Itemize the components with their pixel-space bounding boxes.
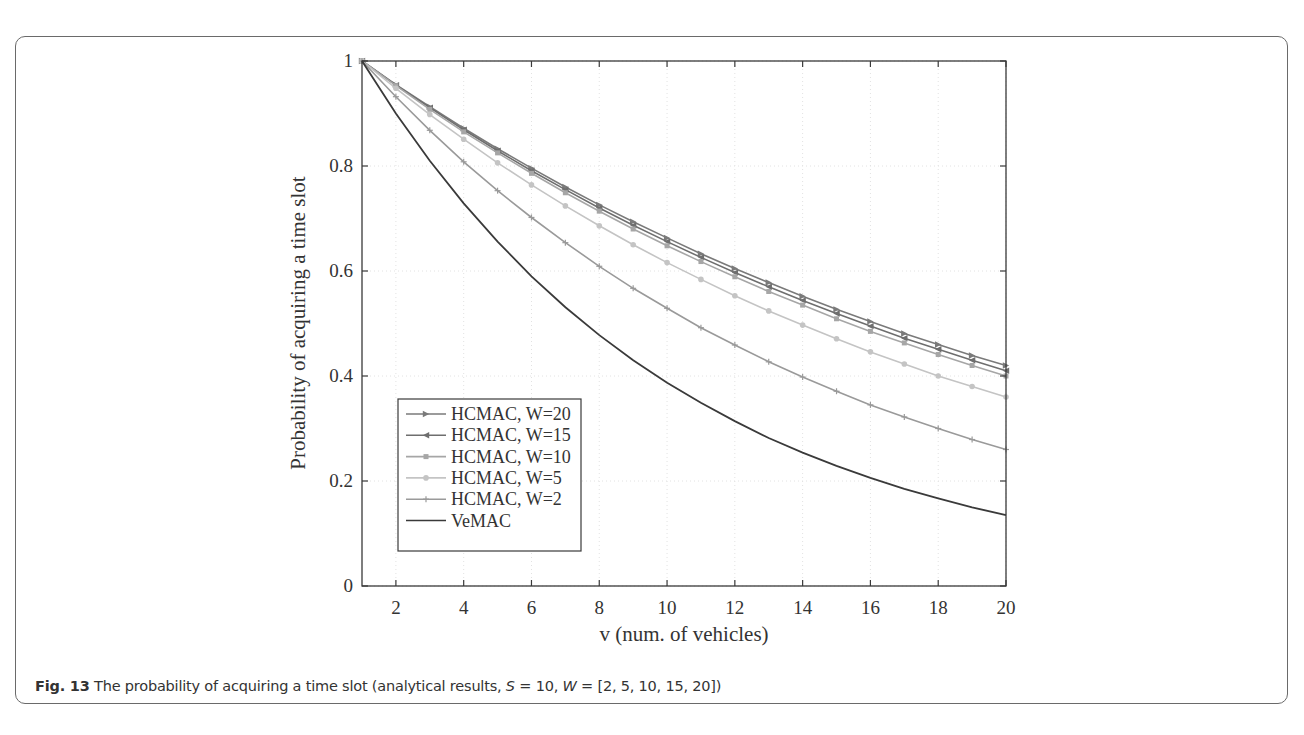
series-line [362,61,1006,397]
marker-square [970,363,975,368]
marker-circle [495,160,501,166]
series-hcmac-w-15 [359,58,1009,374]
marker-square [529,171,534,176]
marker-circle [630,242,636,248]
marker-circle [800,322,806,328]
marker-circle [461,136,467,142]
y-axis-tick-labels: 00.20.40.60.81 [329,50,353,596]
x-tick-label: 10 [658,597,677,618]
x-axis-tick-labels: 2468101214161820 [391,597,1015,618]
marker-square [936,352,941,357]
y-tick-label: 0.6 [329,260,353,281]
y-tick-label: 1 [344,50,354,71]
marker-circle [529,182,535,188]
caption-w-symbol: W [563,678,577,694]
series-line [362,61,1006,376]
marker-square [800,303,805,308]
marker-circle [423,475,429,481]
legend-label: VeMAC [451,511,511,531]
legend-label: HCMAC, W=15 [451,425,571,445]
marker-circle [766,308,772,314]
caption-text-3: = [2, 5, 10, 15, 20]) [577,678,722,694]
marker-circle [596,223,602,229]
marker-square [834,316,839,321]
caption-text: The probability of acquiring a time slot… [90,678,506,694]
figure-label: Fig. 13 [35,678,90,694]
series-line [362,61,1006,366]
marker-circle [834,336,840,342]
marker-circle [698,277,704,283]
marker-square [665,243,670,248]
x-tick-label: 16 [861,597,880,618]
x-tick-label: 2 [391,597,401,618]
marker-square [495,150,500,155]
marker-circle [902,361,908,367]
y-tick-label: 0.2 [329,470,353,491]
x-axis-label: v (num. of vehicles) [599,622,768,646]
marker-square [902,340,907,345]
legend-label: HCMAC, W=10 [451,447,571,467]
caption-s-symbol: S [506,678,515,694]
marker-square [563,190,568,195]
marker-square [868,329,873,334]
marker-circle [427,112,433,118]
x-tick-label: 8 [595,597,605,618]
series-line [362,61,1006,371]
marker-square [427,107,432,112]
marker-square [766,289,771,294]
marker-square [732,274,737,279]
series-hcmac-w-10 [360,59,1009,379]
marker-square [461,129,466,134]
x-tick-label: 6 [527,597,537,618]
marker-square [597,209,602,214]
x-tick-label: 20 [997,597,1016,618]
y-tick-label: 0.8 [329,155,353,176]
legend-label: HCMAC, W=2 [451,489,562,509]
figure-caption: Fig. 13 The probability of acquiring a t… [35,678,721,694]
marker-circle [969,384,975,390]
marker-circle [563,203,569,209]
legend: HCMAC, W=20HCMAC, W=15HCMAC, W=10HCMAC, … [398,399,581,551]
marker-circle [935,373,941,379]
marker-circle [664,260,670,266]
y-tick-label: 0 [344,575,354,596]
legend-label: HCMAC, W=5 [451,468,562,488]
x-tick-label: 18 [929,597,948,618]
y-tick-label: 0.4 [329,365,353,386]
x-tick-label: 12 [725,597,744,618]
marker-circle [393,86,399,92]
marker-circle [732,293,738,299]
y-axis-label: Probability of acquiring a time slot [286,176,310,470]
series-hcmac-w-5 [359,58,1009,400]
caption-text-2: = 10, [515,678,563,694]
x-tick-label: 4 [459,597,469,618]
series-line [362,61,1006,450]
legend-label: HCMAC, W=20 [451,404,571,424]
marker-circle [868,349,874,355]
line-chart: 2468101214161820 00.20.40.60.81 v (num. … [0,0,1304,735]
marker-square [631,227,636,232]
series-hcmac-w-20 [359,58,1009,369]
marker-square [698,259,703,264]
x-tick-label: 14 [793,597,813,618]
marker-square [424,454,429,459]
